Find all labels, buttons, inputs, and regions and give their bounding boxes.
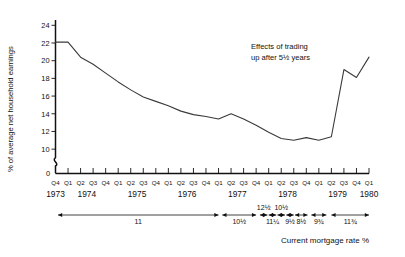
rate-segment-arrow — [260, 213, 268, 217]
x-quarter-label: Q4 — [51, 179, 60, 186]
mortgage-rate-label: 11¾ — [344, 218, 357, 225]
rate-segment-arrow — [311, 213, 326, 217]
x-quarter-label: Q3 — [89, 179, 98, 186]
x-year-label: 1978 — [278, 189, 297, 199]
chart-figure: % of average net household earnings 2422… — [0, 0, 405, 257]
x-quarter-label: Q4 — [202, 179, 211, 186]
mortgage-rate-label: 10½ — [274, 204, 288, 211]
x-quarter-label: Q4 — [352, 179, 361, 186]
x-quarter-label: Q2 — [127, 179, 136, 186]
rate-segment-arrow — [331, 213, 369, 217]
y-tick-label: 20 — [41, 56, 49, 65]
mortgage-rate-label: 10½ — [232, 218, 246, 225]
x-year-label: 1977 — [228, 189, 247, 199]
mortgage-rate-axis: 1110½12½11¼10½9½8½9¾11¾ — [58, 204, 369, 226]
rate-segment-arrow — [277, 213, 285, 217]
x-quarter-label: Q1 — [114, 179, 123, 186]
x-quarter-label: Q3 — [139, 179, 148, 186]
x-year-label: 1974 — [78, 189, 97, 199]
x-quarter-label: Q1 — [164, 179, 173, 186]
x-quarter-label: Q1 — [214, 179, 223, 186]
x-quarter-label: Q4 — [302, 179, 311, 186]
x-quarter-label: Q3 — [189, 179, 198, 186]
x-quarter-label: Q1 — [64, 179, 73, 186]
mortgage-rate-label: 8½ — [296, 218, 306, 225]
annotation-line2: up after 5½ years — [251, 53, 310, 62]
x-quarter-label: Q3 — [239, 179, 248, 186]
rate-segment-arrow — [222, 213, 256, 217]
y-axis-zero-label: 0 — [46, 169, 50, 178]
x-quarter-label: Q4 — [152, 179, 161, 186]
mortgage-rate-label: 12½ — [257, 204, 271, 211]
x-quarter-label: Q3 — [290, 179, 299, 186]
y-axis-ticks: 2422201816141210 — [41, 21, 55, 154]
x-year-label: 1973 — [46, 189, 65, 199]
x-quarter-label: Q1 — [365, 179, 374, 186]
y-tick-label: 10 — [41, 145, 49, 154]
x-axis-quarter-labels: Q4Q1Q2Q3Q4Q1Q2Q3Q4Q1Q2Q3Q4Q1Q2Q3Q4Q1Q2Q3… — [51, 179, 373, 186]
x-year-label: 1979 — [328, 189, 347, 199]
rate-segment-arrow — [295, 213, 308, 217]
y-tick-label: 16 — [41, 92, 49, 101]
chart-canvas: % of average net household earnings 2422… — [0, 0, 405, 257]
x-quarter-label: Q1 — [315, 179, 324, 186]
mortgage-rate-label: 9½ — [285, 218, 295, 225]
mortgage-rate-label: 11¼ — [266, 218, 279, 225]
rate-segment-arrow — [58, 213, 219, 217]
y-tick-label: 12 — [41, 127, 49, 136]
rate-segment-arrow — [269, 213, 277, 217]
x-quarter-label: Q4 — [252, 179, 261, 186]
y-tick-label: 14 — [41, 110, 49, 119]
x-axis-year-labels: 19731974197519761977197819791980 — [46, 189, 378, 199]
x-quarter-label: Q4 — [102, 179, 111, 186]
y-tick-label: 22 — [41, 39, 49, 48]
y-axis-title: % of average net household earnings — [6, 46, 15, 172]
annotation-line1: Effects of trading — [251, 42, 308, 51]
x-quarter-label: Q2 — [277, 179, 286, 186]
mortgage-rate-caption: Current mortgage rate % — [281, 236, 369, 245]
x-year-label: 1975 — [128, 189, 147, 199]
rate-segment-arrow — [286, 213, 294, 217]
x-quarter-label: Q2 — [227, 179, 236, 186]
mortgage-rate-label: 9¾ — [314, 218, 324, 225]
x-quarter-label: Q2 — [327, 179, 336, 186]
y-tick-label: 18 — [41, 74, 49, 83]
x-year-label: 1980 — [360, 189, 379, 199]
x-quarter-label: Q1 — [265, 179, 274, 186]
data-line-series — [56, 42, 370, 140]
x-year-label: 1976 — [178, 189, 197, 199]
x-quarter-label: Q2 — [76, 179, 85, 186]
x-quarter-label: Q3 — [340, 179, 349, 186]
x-axis-ticks — [56, 168, 370, 174]
x-quarter-label: Q2 — [177, 179, 186, 186]
mortgage-rate-label: 11 — [135, 218, 142, 225]
y-tick-label: 24 — [41, 21, 49, 30]
